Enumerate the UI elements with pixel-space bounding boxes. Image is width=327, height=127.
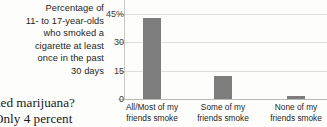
caption-line: Percentage of: [0, 2, 104, 15]
body-text: ked marijuana? Only 4 percent: [0, 95, 104, 126]
x-axis-line: [124, 99, 327, 100]
body-text-line: Only 4 percent: [0, 111, 104, 127]
caption-line: 30 days: [0, 65, 104, 78]
caption-line: 11- to 17-year-olds: [0, 15, 104, 28]
y-tick-label-30: 30: [114, 37, 124, 47]
category-label-line: Some of my: [186, 102, 260, 113]
category-label-line: friends smoke: [186, 113, 260, 124]
category-label-none: None of my friends smoke: [259, 102, 327, 123]
category-label-line: friends smoke: [115, 113, 189, 124]
caption-line: who smoked a: [0, 27, 104, 40]
caption-line: cigarette at least: [0, 40, 104, 53]
y-tick-label-45: 45%: [106, 9, 124, 19]
category-label-line: All/Most of my: [115, 102, 189, 113]
bar-some-friends-smoke: [214, 76, 232, 99]
body-text-line: ked marijuana?: [0, 95, 104, 111]
bar-none-friends-smoke: [287, 96, 305, 99]
y-axis-line: [124, 0, 125, 100]
bar-chart: 45% 30 15 0 All/Most of my friends smoke…: [104, 0, 327, 127]
category-label-all-most: All/Most of my friends smoke: [115, 102, 189, 123]
category-label-line: friends smoke: [259, 113, 327, 124]
caption-line: once in the past: [0, 52, 104, 65]
bar-all-most-friends-smoke: [143, 18, 161, 99]
chart-caption: Percentage of 11- to 17-year-olds who sm…: [0, 2, 104, 78]
y-tick-label-15: 15: [114, 66, 124, 76]
page-root: Percentage of 11- to 17-year-olds who sm…: [0, 0, 327, 127]
category-label-line: None of my: [259, 102, 327, 113]
category-label-some: Some of my friends smoke: [186, 102, 260, 123]
gridline-45: [124, 14, 327, 15]
